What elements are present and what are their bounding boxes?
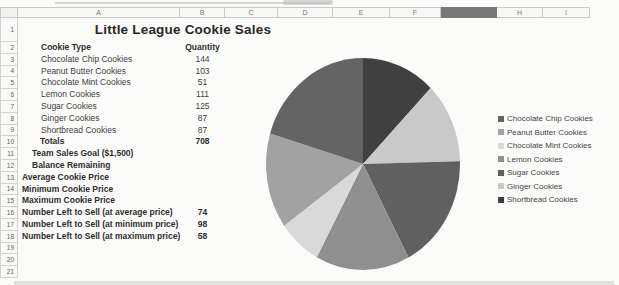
legend-swatch-icon [498, 129, 504, 135]
legend-item-peanut-butter-cookies[interactable]: Peanut Butter Cookies [498, 126, 587, 140]
legend-label: Chocolate Mint Cookies [507, 141, 591, 150]
legend-label: Ginger Cookies [507, 182, 562, 191]
legend-swatch-icon [498, 183, 504, 189]
legend-item-sugar-cookies[interactable]: Sugar Cookies [498, 166, 559, 180]
legend-item-lemon-cookies[interactable]: Lemon Cookies [498, 153, 563, 167]
legend-swatch-icon [498, 116, 504, 122]
legend-swatch-icon [498, 143, 504, 149]
legend-label: Sugar Cookies [507, 168, 559, 177]
legend-label: Shortbread Cookies [507, 195, 578, 204]
spreadsheet-app: ABCDEFGHI 123456789101112131415161718192… [0, 0, 619, 285]
legend-item-chocolate-mint-cookies[interactable]: Chocolate Mint Cookies [498, 139, 591, 153]
legend-item-ginger-cookies[interactable]: Ginger Cookies [498, 180, 562, 194]
legend-label: Chocolate Chip Cookies [507, 114, 593, 123]
legend-swatch-icon [498, 197, 504, 203]
legend-swatch-icon [498, 156, 504, 162]
legend-label: Peanut Butter Cookies [507, 128, 587, 137]
legend-label: Lemon Cookies [507, 155, 563, 164]
legend-swatch-icon [498, 170, 504, 176]
legend-item-chocolate-chip-cookies[interactable]: Chocolate Chip Cookies [498, 112, 593, 126]
legend-item-shortbread-cookies[interactable]: Shortbread Cookies [498, 193, 578, 207]
